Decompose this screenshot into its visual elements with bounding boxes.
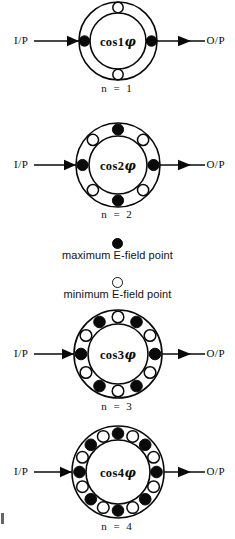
maximum-efield-point: [75, 348, 87, 360]
minimum-efield-point: [87, 134, 98, 145]
maximum-efield-point: [139, 493, 151, 505]
maximum-efield-point: [146, 36, 156, 46]
maximum-efield-point: [131, 380, 143, 392]
maximum-efield-point: [74, 466, 86, 478]
minimum-efield-point: [127, 502, 139, 514]
legend-entry-minimum: minimum E-field point: [0, 275, 235, 300]
minimum-efield-point: [138, 185, 149, 196]
figure-canvas: cos1φ I/P O/P n = 1 cos2φ I/P O/P n = 2 …: [0, 0, 235, 539]
ring-mode-label: cos1φ: [100, 34, 137, 49]
minimum-efield-point: [97, 502, 109, 514]
maximum-efield-point: [79, 36, 89, 46]
mode-diagram-n3: cos3φ I/P O/P n = 3: [0, 305, 235, 420]
input-label-n1: I/P: [14, 34, 28, 46]
mode-diagram-n2: cos2φ I/P O/P n = 2: [0, 116, 235, 226]
output-arrowhead: [178, 36, 191, 46]
maximum-efield-point: [85, 493, 97, 505]
minimum-efield-point: [112, 385, 124, 397]
maximum-efield-point: [85, 439, 97, 451]
mode-caption-n2: n = 2: [0, 208, 235, 220]
legend-label-maximum: maximum E-field point: [0, 249, 235, 261]
mode-diagram-n4: cos4φ I/P O/P n = 4: [0, 421, 235, 539]
minimum-efield-point: [80, 367, 92, 379]
minimum-efield-point: [148, 451, 160, 463]
maximum-efield-point: [112, 195, 123, 206]
mode-diagram-n1: cos1φ I/P O/P n = 1: [0, 0, 235, 100]
minimum-efield-point: [144, 330, 156, 342]
maximum-efield-point: [94, 380, 106, 392]
input-label-n4: I/P: [14, 465, 28, 477]
minimum-efield-point: [87, 185, 98, 196]
minimum-efield-point: [127, 431, 139, 443]
maximum-efield-point: [149, 348, 161, 360]
minimum-efield-point: [113, 2, 123, 12]
minimum-efield-point: [113, 69, 123, 79]
input-arrowhead: [62, 349, 74, 359]
maximum-efield-point: [148, 159, 159, 170]
minimum-efield-point: [97, 431, 109, 443]
input-arrowhead: [67, 36, 79, 46]
minimum-efield-point: [77, 481, 89, 493]
output-label-n4: O/P: [206, 465, 225, 477]
input-label-n2: I/P: [14, 158, 28, 170]
maximum-efield-point: [94, 316, 106, 328]
open-circle-icon: [0, 275, 235, 288]
minimum-efield-point: [138, 134, 149, 145]
ring-mode-label: cos4φ: [100, 465, 137, 480]
output-arrowhead: [178, 160, 191, 170]
input-arrowhead: [64, 160, 76, 170]
input-arrowhead: [60, 467, 72, 477]
minimum-efield-point: [144, 367, 156, 379]
output-label-n1: O/P: [206, 34, 225, 46]
input-label-n3: I/P: [14, 347, 28, 359]
legend: maximum E-field point minimum E-field po…: [0, 236, 235, 302]
minimum-efield-point: [80, 330, 92, 342]
filled-dot-icon: [0, 236, 235, 249]
minimum-efield-point: [77, 451, 89, 463]
legend-entry-maximum: maximum E-field point: [0, 236, 235, 261]
maximum-efield-point: [151, 466, 163, 478]
minimum-efield-point: [112, 311, 124, 323]
maximum-efield-point: [131, 316, 143, 328]
mode-caption-n4: n = 4: [0, 520, 235, 532]
minimum-efield-point: [148, 481, 160, 493]
maximum-efield-point: [139, 439, 151, 451]
maximum-efield-point: [112, 505, 124, 517]
ring-mode-label: cos3φ: [100, 347, 137, 362]
ring-mode-label: cos2φ: [100, 158, 137, 173]
maximum-efield-point: [112, 124, 123, 135]
output-label-n2: O/P: [206, 158, 225, 170]
legend-label-minimum: minimum E-field point: [0, 288, 235, 300]
scan-edge-artifact: [1, 513, 4, 524]
mode-caption-n3: n = 3: [0, 400, 235, 412]
mode-caption-n1: n = 1: [0, 82, 235, 94]
output-label-n3: O/P: [206, 347, 225, 359]
maximum-efield-point: [77, 159, 88, 170]
maximum-efield-point: [112, 428, 124, 440]
output-arrowhead: [178, 349, 191, 359]
output-arrowhead: [178, 467, 191, 477]
